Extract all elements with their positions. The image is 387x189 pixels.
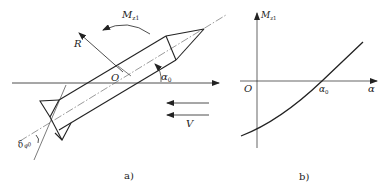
rocket-body: [40, 29, 204, 140]
origin-O-label: O: [111, 72, 119, 83]
panel-b: Mz1 O α0 α b): [240, 10, 377, 182]
moment-arc: [103, 25, 150, 34]
zero-crossing-alpha0-label: α0: [319, 84, 329, 95]
velocity-V-label: V: [186, 118, 195, 129]
caption-a: a): [124, 170, 134, 181]
force-R-base: [118, 66, 131, 76]
fin-deflection-line: [34, 85, 66, 160]
x-axis-label: α: [368, 83, 375, 94]
caption-b: b): [299, 171, 309, 182]
figure-canvas: Mz1 R O α0 V δφ0 a) Mz1 O α0 α b): [0, 0, 387, 189]
origin-O-label: O: [244, 83, 252, 94]
rocket-centerline: [20, 15, 226, 141]
moment-label: Mz1: [121, 9, 139, 21]
panel-a: Mz1 R O α0 V δφ0 a): [12, 9, 226, 181]
angle-alpha0-label: α0: [161, 71, 172, 83]
deflection-angle-arc: [36, 135, 39, 143]
moment-curve: [241, 42, 363, 136]
y-axis-label: Mz1: [260, 10, 277, 21]
force-R-arrow: [79, 33, 123, 72]
force-R-label: R: [73, 38, 82, 49]
